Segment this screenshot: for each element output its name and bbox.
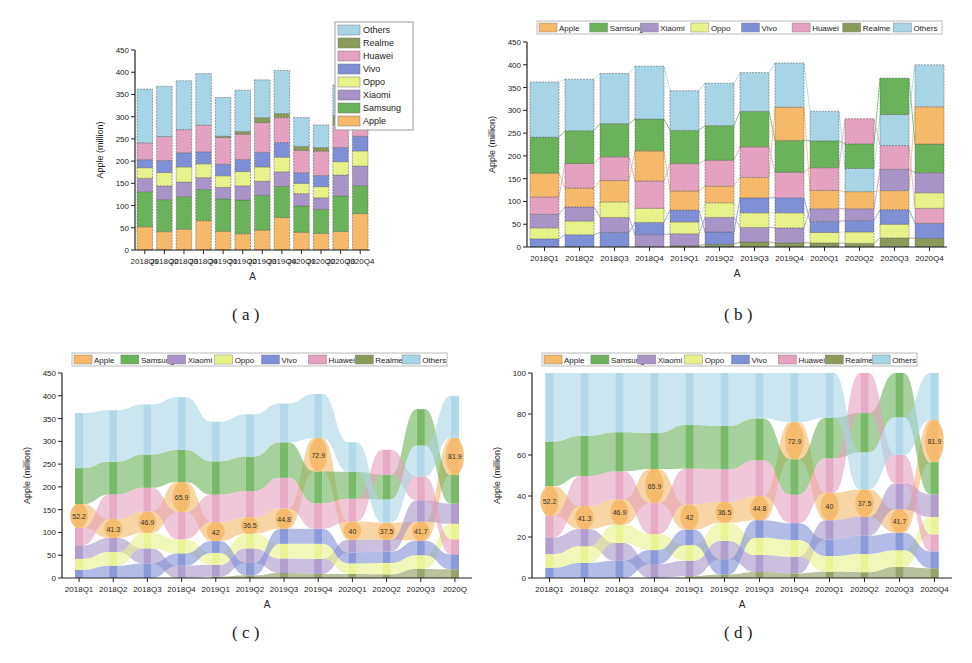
ribbon-xiaomi (288, 558, 314, 573)
y-axis-title: Apple (million) (487, 116, 497, 173)
bar-segment (352, 136, 368, 151)
column-segment (314, 559, 322, 574)
legend-swatch (539, 23, 557, 32)
bar-segment (352, 151, 368, 166)
bar-segment (915, 65, 944, 107)
column-segment (382, 563, 390, 574)
x-tick-label: 2019Q1 (675, 585, 704, 594)
x-tick-label: 2020Q3 (880, 254, 909, 263)
bar-segment (845, 192, 874, 209)
y-tick-label: 80 (517, 410, 526, 419)
bar-segment (313, 233, 329, 250)
bar-segment (255, 80, 271, 118)
column-segment (825, 520, 833, 539)
ribbon-realme (425, 569, 451, 578)
legend-swatch (778, 355, 796, 364)
legend-swatch (338, 116, 360, 126)
column-segment (314, 471, 322, 503)
column-segment (451, 475, 459, 504)
column-segment (280, 478, 288, 509)
bar-segment (635, 208, 664, 222)
x-axis-title: A (739, 599, 746, 610)
bar-segment (157, 186, 173, 200)
bar-segment (845, 119, 874, 144)
column-segment (755, 373, 763, 419)
ribbon-others (288, 394, 314, 442)
y-tick-label: 100 (513, 369, 527, 378)
y-tick-label: 250 (116, 135, 130, 144)
legend-swatch (74, 355, 92, 364)
column-segment (895, 373, 903, 417)
bar-segment (775, 198, 804, 213)
bar-segment (775, 140, 804, 172)
column-segment (790, 459, 798, 495)
bar-segment (235, 132, 251, 135)
column-segment (895, 567, 903, 578)
bar-segment (176, 167, 192, 182)
legend-swatch (168, 355, 186, 364)
legend-label: Apple (363, 116, 386, 126)
column-segment (790, 540, 798, 557)
x-tick-label: 2019Q4 (775, 254, 804, 263)
column-segment (615, 373, 623, 432)
column-segment (348, 552, 356, 563)
bar-segment (810, 141, 839, 168)
legend-label: Others (913, 24, 937, 33)
column-segment (790, 523, 798, 540)
legend-label: Vivo (762, 24, 778, 33)
ribbon-samsung (220, 457, 246, 495)
column-segment (75, 413, 83, 468)
bar-segment (274, 142, 290, 157)
bar-segment (294, 232, 310, 250)
column-segment (212, 461, 220, 494)
x-tick-label: 2018Q2 (570, 585, 599, 594)
y-tick-label: 150 (116, 179, 130, 188)
column-segment (545, 373, 553, 441)
bar-segment (635, 181, 664, 208)
x-tick-label: 2018Q4 (167, 585, 196, 594)
column-segment (860, 452, 868, 489)
column-segment (246, 548, 254, 563)
bar-segment (775, 172, 804, 198)
bar-segment (235, 172, 251, 186)
column-segment (280, 558, 288, 573)
bar-segment (600, 124, 629, 157)
x-tick-label: 2020Q1 (338, 585, 367, 594)
column-segment (451, 569, 459, 578)
column-segment (75, 528, 83, 545)
column-segment (615, 471, 623, 499)
bar-segment (137, 160, 153, 168)
ribbon-realme (834, 572, 861, 578)
column-segment (650, 373, 658, 433)
x-tick-label: 2018Q1 (535, 585, 564, 594)
column-segment (246, 414, 254, 456)
ribbon-xiaomi (186, 565, 212, 578)
bar-segment (705, 126, 734, 161)
column-segment (825, 458, 833, 492)
bar-segment (255, 181, 271, 195)
column-segment (75, 545, 83, 559)
bar-segment (635, 119, 664, 151)
bar-segment (333, 147, 349, 161)
bar-segment (196, 221, 212, 250)
x-tick-label: 2020Q1 (815, 585, 844, 594)
column-segment (895, 550, 903, 567)
bar-segment (274, 118, 290, 143)
y-tick-label: 250 (43, 460, 57, 469)
apple-value-label: 44.8 (753, 505, 767, 512)
bar-segment (810, 191, 839, 209)
bar-segment (705, 186, 734, 203)
x-tick-label: 2020Q4 (346, 257, 375, 266)
column-segment (143, 533, 151, 548)
column-segment (685, 530, 693, 546)
ribbon-vivo (288, 529, 314, 544)
y-tick-label: 100 (508, 197, 522, 206)
bar-segment (740, 177, 769, 197)
bar-segment (705, 83, 734, 125)
bar-segment (635, 151, 664, 181)
column-segment (417, 446, 425, 477)
column-segment (650, 433, 658, 469)
y-tick-label: 20 (517, 533, 526, 542)
bar-segment (565, 221, 594, 235)
bar-segment (775, 243, 804, 247)
